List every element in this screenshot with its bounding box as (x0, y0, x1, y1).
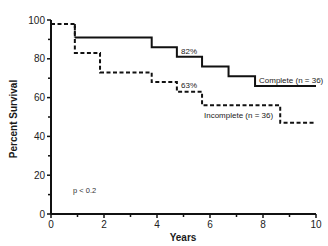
complete-label: Complete (n = 36) (259, 76, 324, 85)
x-tick-label: 2 (101, 219, 107, 230)
x-tick-label: 6 (207, 219, 213, 230)
incomplete-pct-annotation: 63% (181, 81, 197, 90)
y-tick-label: 80 (34, 53, 46, 64)
x-tick-label: 8 (260, 219, 266, 230)
y-tick-label: 60 (34, 92, 46, 103)
y-axis-label: Percent Survival (8, 74, 22, 164)
x-tick-label: 0 (48, 219, 54, 230)
x-axis-label: Years (153, 232, 213, 243)
complete-pct-annotation: 82% (181, 47, 197, 56)
x-tick-label: 10 (310, 219, 322, 230)
y-tick-label: 0 (39, 209, 45, 220)
incomplete-series-line (51, 24, 316, 123)
y-tick-label: 40 (34, 131, 46, 142)
incomplete-label: Incomplete (n = 36) (204, 111, 273, 120)
survival-chart: 0204060801000246810 Complete (n = 36) In… (0, 0, 328, 246)
p-value-annotation: p < 0.2 (73, 186, 96, 195)
series-lines (51, 24, 316, 123)
x-tick-label: 4 (154, 219, 160, 230)
y-tick-label: 100 (28, 15, 45, 26)
y-tick-label: 20 (34, 170, 46, 181)
